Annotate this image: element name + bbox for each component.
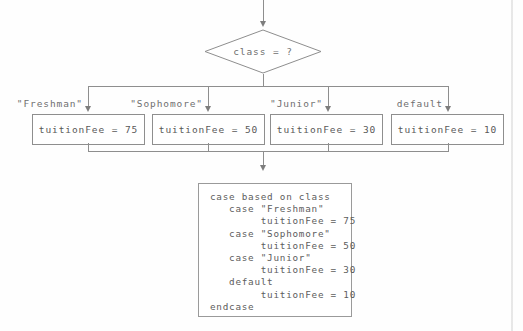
- exit-arrowhead: [260, 165, 266, 171]
- process-box-sophomore-label: tuitionFee = 50: [159, 124, 258, 135]
- process-box-default: tuitionFee = 10: [391, 114, 504, 145]
- merge-drop-3: [328, 143, 329, 151]
- branch-label-sophomore: "Sophomore": [118, 98, 203, 109]
- branch-label-default: default: [378, 98, 443, 109]
- branch-label-freshman: "Freshman": [8, 98, 83, 109]
- decision-label: class = ?: [204, 29, 322, 74]
- branch-arrowhead-3: [325, 106, 331, 112]
- merge-drop-2: [208, 143, 209, 151]
- merge-drop-4: [448, 143, 449, 151]
- distribution-bar: [88, 86, 449, 87]
- pseudocode-box: case based on class case "Freshman" tuit…: [198, 183, 352, 317]
- branch-drop-1: [88, 86, 89, 107]
- branch-drop-2: [208, 86, 209, 107]
- branch-drop-3: [328, 86, 329, 107]
- branch-arrowhead-4: [445, 106, 451, 112]
- process-box-sophomore: tuitionFee = 50: [152, 114, 265, 145]
- branch-arrowhead-1: [85, 106, 91, 112]
- process-box-default-label: tuitionFee = 10: [398, 124, 497, 135]
- branch-label-junior: "Junior": [253, 98, 323, 109]
- convergence-bar: [88, 151, 449, 152]
- decision-exit-line: [263, 74, 264, 86]
- merge-drop-1: [88, 143, 89, 151]
- entry-arrowhead: [260, 21, 266, 27]
- flowchart-canvas: class = ? "Freshman" "Sophomore" "Junior…: [0, 0, 523, 331]
- exit-connector-line: [263, 151, 264, 166]
- decision-diamond: class = ?: [204, 29, 322, 74]
- scan-edge-artifact: [511, 0, 513, 331]
- process-box-freshman-label: tuitionFee = 75: [39, 124, 138, 135]
- branch-drop-4: [448, 86, 449, 107]
- process-box-junior-label: tuitionFee = 30: [277, 124, 376, 135]
- process-box-junior: tuitionFee = 30: [270, 114, 383, 145]
- pseudocode-text: case based on class case "Freshman" tuit…: [210, 191, 341, 313]
- branch-arrowhead-2: [205, 106, 211, 112]
- entry-connector-line: [263, 0, 264, 22]
- process-box-freshman: tuitionFee = 75: [32, 114, 145, 145]
